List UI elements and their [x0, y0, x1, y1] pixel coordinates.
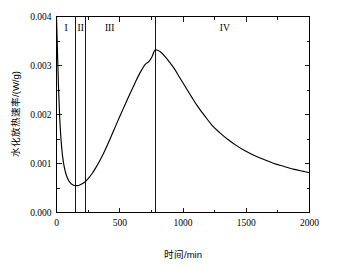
chart-figure: IIIIIIIV 0500100015002000 0.0000.0010.00… [0, 0, 353, 267]
x-tick-label: 1000 [174, 218, 193, 228]
region-label-ii: II [77, 23, 83, 33]
y-tick-label: 0.004 [30, 12, 52, 22]
region-label-iv: IV [220, 23, 230, 33]
x-tick-label: 2000 [300, 218, 319, 228]
y-tick-label: 0.003 [30, 61, 52, 71]
x-tick-label: 1500 [237, 218, 256, 228]
y-tick-label: 0.002 [30, 110, 52, 120]
y-tick-label: 0.001 [30, 159, 52, 169]
y-tick-label: 0.000 [30, 208, 52, 218]
region-label-i: I [64, 23, 67, 33]
hydration-heat-rate-chart: IIIIIIIV 0500100015002000 0.0000.0010.00… [0, 0, 353, 267]
x-tick-label: 500 [113, 218, 128, 228]
x-axis-title: 时间/min [164, 249, 202, 260]
y-axis-title: 水化放热速率/(W/g) [10, 71, 21, 157]
region-label-iii: III [105, 23, 115, 33]
x-tick-label: 0 [54, 218, 59, 228]
